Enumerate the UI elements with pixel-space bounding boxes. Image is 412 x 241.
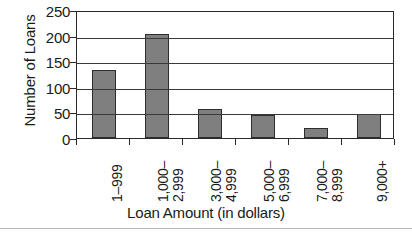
x-axis-category-label-line: 9,000+ — [375, 146, 389, 202]
x-axis-tick-mark — [129, 139, 130, 145]
x-axis-category-label-line: 2,999 — [171, 146, 185, 202]
bar-chart-figure: Number of Loans 050100150200250 1–9991,0… — [0, 0, 412, 241]
x-axis-category-label-line: 5,000– — [262, 146, 276, 202]
y-axis-tick-mark — [70, 62, 76, 63]
x-axis-category-label-line: 1–999 — [110, 146, 124, 202]
bar — [92, 70, 116, 138]
x-axis-category-label: 1,000–2,999 — [143, 146, 173, 202]
bars-layer — [77, 12, 393, 138]
caption-divider — [0, 228, 412, 229]
x-axis-category-label: 9,000+ — [362, 146, 377, 202]
x-axis-category-label-line: 1,000– — [156, 146, 170, 202]
bar — [304, 128, 328, 138]
y-axis-tick-label: 150 — [24, 55, 70, 70]
x-axis-category-label-line: 3,000– — [209, 146, 223, 202]
x-axis-tick-mark — [341, 139, 342, 145]
y-axis-tick-mark — [70, 113, 76, 114]
y-axis-tick-label: 200 — [24, 30, 70, 45]
gridline — [77, 63, 393, 64]
x-axis-category-label: 1–999 — [97, 146, 112, 202]
y-axis-tick-mark — [70, 37, 76, 38]
y-axis-tick-label: 100 — [24, 81, 70, 96]
x-axis-tick-mark — [76, 139, 77, 145]
x-axis-tick-mark — [235, 139, 236, 145]
x-axis-category-labels: 1–9991,000–2,9993,000–4,9995,000–6,9997,… — [76, 146, 394, 202]
bar — [251, 115, 275, 138]
x-axis-category-label: 5,000–6,999 — [249, 146, 279, 202]
x-axis-tick-mark — [182, 139, 183, 145]
y-axis-tick-label: 250 — [24, 4, 70, 19]
x-axis-category-label-line: 4,999 — [224, 146, 238, 202]
y-axis-tick-label: 0 — [24, 132, 70, 147]
bar — [198, 109, 222, 138]
x-axis-category-label-line: 7,000– — [315, 146, 329, 202]
x-axis-category-label-line: 6,999 — [277, 146, 291, 202]
x-axis-category-label-line: 8,999 — [330, 146, 344, 202]
y-axis-tick-label: 50 — [24, 106, 70, 121]
x-axis-category-label: 7,000–8,999 — [302, 146, 332, 202]
y-axis-tick-labels: 050100150200250 — [24, 0, 70, 145]
gridline — [77, 38, 393, 39]
x-axis-category-label: 3,000–4,999 — [196, 146, 226, 202]
bar — [357, 114, 381, 138]
y-axis-tick-mark — [70, 88, 76, 89]
y-axis-tick-mark — [70, 11, 76, 12]
bar — [145, 34, 169, 138]
gridline — [77, 89, 393, 90]
plot-area — [76, 11, 394, 139]
x-axis-tick-mark — [288, 139, 289, 145]
x-axis-tick-mark — [394, 139, 395, 145]
x-axis-title: Loan Amount (in dollars) — [0, 204, 412, 221]
gridline — [77, 114, 393, 115]
